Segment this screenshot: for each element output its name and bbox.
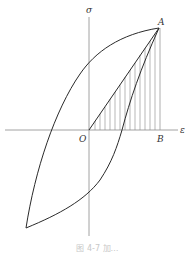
sigma-axis-label: σ [86, 6, 92, 15]
line-o-a [89, 28, 159, 130]
figure-caption: 图 4-7 加… [0, 242, 195, 253]
point-a-label: A [158, 18, 165, 27]
origin-label: O [79, 135, 86, 144]
epsilon-axis-label: ε [180, 126, 185, 135]
lower-curve [26, 28, 159, 228]
upper-curve [26, 28, 159, 228]
hatch-region [95, 34, 155, 130]
point-b-label: B [157, 135, 164, 144]
